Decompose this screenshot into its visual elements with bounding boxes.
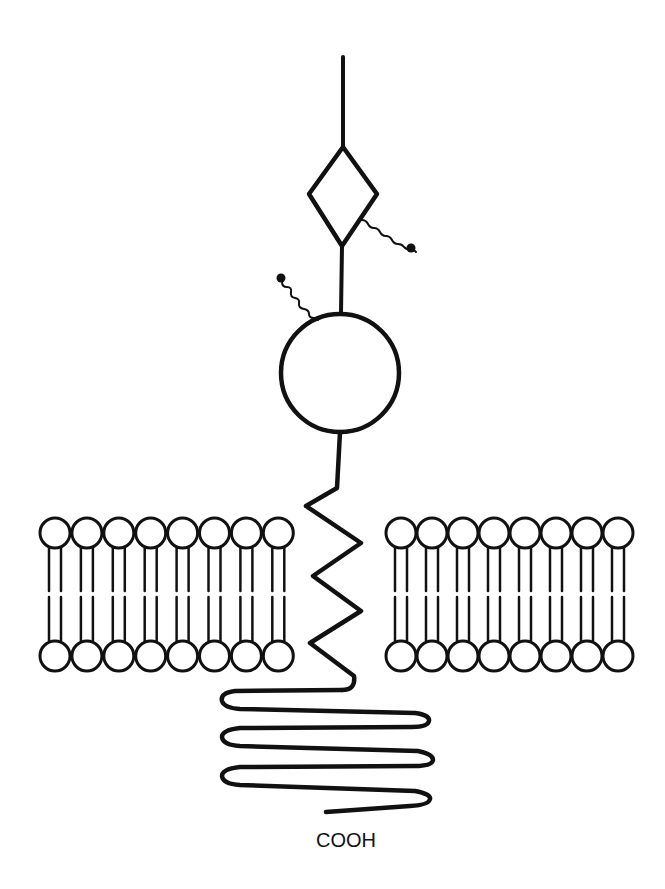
lipid-head — [541, 641, 571, 671]
membrane-right-block — [386, 518, 633, 671]
lipid-head — [231, 518, 261, 548]
lipid-head — [479, 518, 509, 548]
lipid-head — [386, 641, 416, 671]
lipid-head — [572, 518, 602, 548]
glycan-chain-right — [362, 220, 416, 253]
phospholipid — [200, 518, 230, 671]
globular-domain — [281, 314, 399, 432]
phospholipid — [136, 518, 166, 671]
lipid-head — [72, 641, 102, 671]
interdomain-linker — [341, 246, 342, 313]
lipid-head — [72, 518, 102, 548]
phospholipid — [417, 518, 447, 671]
phospholipid — [72, 518, 102, 671]
glycan-chain-left — [277, 274, 319, 321]
receptor-membrane-diagram: COOH — [0, 0, 665, 889]
lipid-head — [541, 518, 571, 548]
lipid-head — [572, 641, 602, 671]
phospholipid — [541, 518, 571, 671]
cytoplasmic-tail — [222, 690, 433, 812]
phospholipid — [603, 518, 633, 671]
transmembrane-helix — [306, 432, 361, 690]
phospholipid — [168, 518, 198, 671]
phospholipid — [572, 518, 602, 671]
phospholipid — [510, 518, 540, 671]
lipid-head — [263, 518, 293, 548]
glycan-terminal-dot-left — [277, 274, 286, 283]
glycan-terminal-dot-right — [407, 244, 416, 253]
membrane-left-block — [40, 518, 293, 671]
phospholipid — [263, 518, 293, 671]
lipid-head — [200, 518, 230, 548]
phospholipid — [448, 518, 478, 671]
lipid-head — [136, 518, 166, 548]
lipid-head — [448, 641, 478, 671]
diamond-domain — [309, 147, 377, 246]
c-terminus-label: COOH — [316, 829, 376, 851]
phospholipid — [479, 518, 509, 671]
lipid-head — [417, 641, 447, 671]
lipid-head — [104, 518, 134, 548]
phospholipid — [231, 518, 261, 671]
lipid-head — [168, 518, 198, 548]
phospholipid — [104, 518, 134, 671]
lipid-head — [231, 641, 261, 671]
lipid-head — [510, 641, 540, 671]
lipid-head — [168, 641, 198, 671]
lipid-head — [386, 518, 416, 548]
lipid-head — [448, 518, 478, 548]
lipid-head — [479, 641, 509, 671]
lipid-head — [603, 641, 633, 671]
phospholipid — [386, 518, 416, 671]
lipid-head — [40, 641, 70, 671]
phospholipid — [40, 518, 70, 671]
lipid-head — [263, 641, 293, 671]
lipid-head — [417, 518, 447, 548]
lipid-head — [136, 641, 166, 671]
lipid-head — [510, 518, 540, 548]
lipid-head — [40, 518, 70, 548]
lipid-head — [200, 641, 230, 671]
lipid-head — [603, 518, 633, 548]
lipid-head — [104, 641, 134, 671]
